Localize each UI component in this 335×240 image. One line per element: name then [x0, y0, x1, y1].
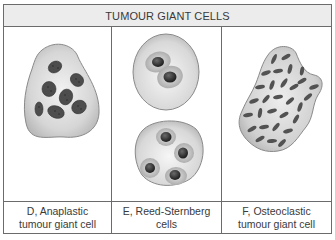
caption-line-1: D, Anaplastic: [27, 205, 88, 218]
panel-osteoclastic: F, Osteoclastic tumour giant cell: [222, 27, 331, 233]
anaplastic-giant-cell-illustration: [4, 27, 111, 201]
caption-reed-sternberg: E, Reed-Sternberg cells: [112, 201, 221, 233]
figure-title: TUMOUR GIANT CELLS: [4, 5, 331, 27]
panel-reed-sternberg: E, Reed-Sternberg cells: [112, 27, 222, 233]
reed-sternberg-cells-illustration: [112, 27, 221, 201]
tumour-giant-cells-figure: TUMOUR GIANT CELLS: [3, 4, 332, 234]
caption-anaplastic: D, Anaplastic tumour giant cell: [4, 201, 111, 233]
caption-line-1: F, Osteoclastic: [242, 205, 310, 218]
caption-line-2: tumour giant cell: [238, 218, 315, 231]
caption-line-2: tumour giant cell: [19, 218, 96, 231]
osteoclastic-giant-cell-illustration: [222, 27, 331, 201]
caption-line-2: cells: [156, 218, 177, 231]
caption-line-1: E, Reed-Sternberg: [123, 205, 211, 218]
caption-osteoclastic: F, Osteoclastic tumour giant cell: [222, 201, 331, 233]
panel-anaplastic: D, Anaplastic tumour giant cell: [4, 27, 112, 233]
